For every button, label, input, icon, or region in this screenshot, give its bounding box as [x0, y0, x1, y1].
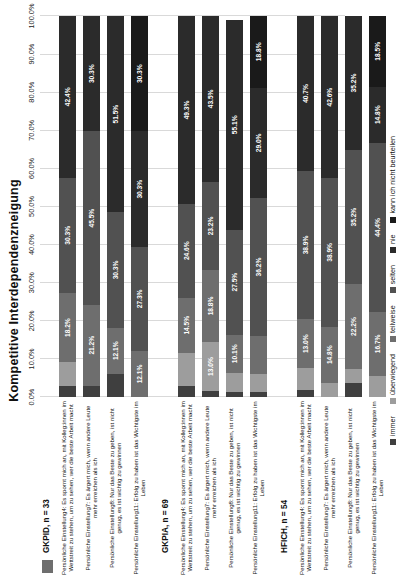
bar-segment: [226, 373, 243, 392]
rotated-figure-container: Kompetitive Interdependenzneigung 0.0%10…: [0, 0, 399, 581]
legend-item[interactable]: selten: [388, 265, 397, 293]
bar-segment: [250, 392, 267, 397]
x-tick-label: 30.0%: [27, 272, 36, 293]
bar-segment: [369, 376, 386, 397]
legend-item[interactable]: nie: [388, 235, 397, 254]
row-category-label: Persönliche Einstellung8: Nur das Beste …: [108, 397, 122, 575]
bar-segment: 13.0%: [297, 319, 314, 368]
bar-segment: 40.7%: [297, 16, 314, 171]
bar-row: Persönliche Einstellung4: Es spornt mich…: [175, 16, 197, 575]
bar-segment: 14.8%: [369, 87, 386, 143]
row-category-label: Persönliche Einstellung8: Nur das Beste …: [227, 397, 241, 575]
bar-segment: 30.3%: [131, 16, 148, 131]
bar-segment: 30.3%: [107, 212, 124, 327]
legend-item[interactable]: kann ich nicht beurteilen: [388, 136, 397, 223]
row-category-label: Persönliche Einstellung11: Erfolg zu hab…: [370, 397, 384, 575]
bar-segment: 14.5%: [178, 298, 195, 353]
bar-row: Persönliche Einstellung4: Es spornt mich…: [56, 16, 78, 575]
legend-label: selten: [388, 265, 397, 284]
legend-swatch-icon: [390, 336, 396, 342]
bar-segment: [83, 386, 100, 397]
group-name-label: GKPID, n = 33: [42, 499, 51, 553]
legend-item[interactable]: teilweise: [388, 305, 397, 342]
bar-segment: [297, 390, 314, 397]
bar-segment: [345, 369, 362, 383]
bar-segment: 14.8%: [321, 327, 338, 383]
chart-title: Kompetitive Interdependenzneigung: [7, 6, 21, 575]
row-category-label: Persönliche Einstellung4: Es spornt mich…: [298, 397, 312, 575]
legend-label: nie: [388, 235, 397, 245]
group-name-label: GKPIA, n = 69: [161, 499, 170, 553]
x-tick-label: 90.0%: [27, 44, 36, 65]
row-category-label: Persönliche Einstellung11: Erfolg zu hab…: [251, 397, 265, 575]
bar-row: Persönliche Einstellung11: Erfolg zu hab…: [366, 16, 388, 575]
bar-segment: [178, 353, 195, 386]
legend-label: immer: [388, 416, 397, 436]
x-tick-label: 50.0%: [27, 196, 36, 217]
bar-segment: 18.8%: [250, 16, 267, 88]
bar-row: Persönliche Einstellung7: Es ärgert mich…: [80, 16, 102, 575]
stacked-bar: 22.2%35.2%35.2%: [345, 16, 362, 397]
bar-segment: 18.5%: [369, 16, 386, 86]
stacked-bar: 36.2%29.0%18.8%: [250, 16, 267, 397]
bar-group: GKPIA, n = 69Persönliche Einstellung4: E…: [159, 16, 269, 575]
group-name-label: HFICH, n = 54: [280, 500, 289, 553]
legend-swatch-icon: [390, 247, 396, 253]
stacked-bar: 13.0%38.9%40.7%: [297, 16, 314, 397]
bar-segment: 45.5%: [83, 131, 100, 304]
bar-segment: 30.3%: [131, 131, 148, 246]
stacked-bar: 12.1%30.3%51.5%: [107, 16, 124, 397]
bar-row: Persönliche Einstellung7: Es ärgert mich…: [318, 16, 340, 575]
bar-segment: 55.1%: [226, 20, 243, 230]
bar-segment: 12.1%: [107, 328, 124, 374]
bar-segment: 24.6%: [178, 204, 195, 298]
x-tick-label: 100.0%: [27, 3, 36, 28]
x-tick-label: 70.0%: [27, 120, 36, 141]
legend-swatch-icon: [390, 439, 396, 445]
stacked-bar: 10.1%27.5%55.1%: [226, 16, 243, 397]
chart-legend: immerüberwiegendteilweiseseltenniekann i…: [388, 0, 397, 581]
row-category-label: Persönliche Einstellung7: Es ärgert mich…: [322, 397, 336, 575]
bar-group: HFICH, n = 54Persönliche Einstellung4: E…: [278, 16, 388, 575]
x-tick-label: 10.0%: [27, 348, 36, 369]
legend-swatch-icon: [390, 287, 396, 293]
legend-item[interactable]: immer: [388, 416, 397, 445]
bar-row: Persönliche Einstellung7: Es ärgert mich…: [199, 16, 221, 575]
x-tick-label: 80.0%: [27, 82, 36, 103]
bar-segment: 23.2%: [202, 182, 219, 270]
legend-label: teilweise: [388, 305, 397, 333]
bar-segment: 35.2%: [345, 16, 362, 150]
bar-rows: GKPID, n = 33Persönliche Einstellung4: E…: [40, 16, 345, 575]
bar-row: Persönliche Einstellung8: Nur das Beste …: [223, 16, 245, 575]
row-category-label: Persönliche Einstellung7: Es ärgert mich…: [84, 397, 98, 575]
group-spacer: [152, 16, 159, 575]
bar-segment: 10.1%: [226, 335, 243, 373]
bar-segment: 18.2%: [59, 293, 76, 362]
bar-segment: [178, 386, 195, 397]
bar-segment: 29.0%: [250, 88, 267, 198]
bar-row: Persönliche Einstellung8: Nur das Beste …: [104, 16, 126, 575]
group-header: GKPID, n = 33: [40, 16, 56, 575]
bar-segment: 18.8%: [202, 270, 219, 342]
x-tick-label: 60.0%: [27, 158, 36, 179]
bar-segment: 38.9%: [297, 171, 314, 319]
x-tick-label: 20.0%: [27, 310, 36, 331]
stacked-bar: 18.2%30.3%42.4%: [59, 16, 76, 397]
bar-segment: 42.4%: [59, 16, 76, 178]
group-marker-icon: [42, 560, 53, 573]
bar-segment: 30.3%: [59, 178, 76, 293]
row-category-label: Persönliche Einstellung4: Es spornt mich…: [179, 397, 193, 575]
bar-segment: 13.0%: [202, 342, 219, 392]
row-category-label: Persönliche Einstellung8: Nur das Beste …: [346, 397, 360, 575]
bar-segment: [226, 392, 243, 397]
bar-segment: 36.2%: [250, 198, 267, 336]
bar-segment: 21.2%: [83, 305, 100, 386]
bar-segment: 42.6%: [321, 16, 338, 178]
legend-item[interactable]: überwiegend: [388, 354, 397, 404]
group-spacer: [271, 16, 278, 575]
bar-segment: 35.2%: [345, 150, 362, 284]
row-category-label: Persönliche Einstellung11: Erfolg zu hab…: [132, 397, 146, 575]
bar-segment: 38.9%: [321, 178, 338, 326]
bar-segment: [297, 368, 314, 389]
bar-segment: [250, 336, 267, 374]
